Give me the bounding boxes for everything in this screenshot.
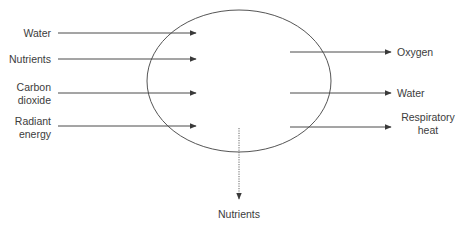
- input-label-radiant-energy: Radiant energy: [15, 115, 51, 140]
- output-label-water: Water: [397, 87, 425, 100]
- input-label-carbon-dioxide: Carbon dioxide: [17, 81, 51, 106]
- loss-label-nutrients: Nutrients: [199, 208, 279, 221]
- input-label-nutrients: Nutrients: [9, 53, 51, 66]
- output-label-oxygen: Oxygen: [397, 46, 433, 59]
- output-label-respiratory-heat: Respiratory heat: [396, 111, 460, 136]
- input-label-water: Water: [23, 27, 51, 40]
- input-output-diagram: [0, 0, 460, 231]
